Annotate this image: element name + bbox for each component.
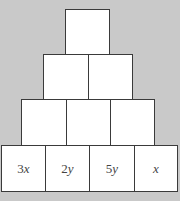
pyramid-cell-r3-c3 — [110, 99, 155, 146]
cell-variable: x — [24, 161, 30, 177]
cell-variable: y — [68, 161, 74, 177]
pyramid-cell-r3-c1 — [21, 99, 67, 146]
cell-variable: y — [112, 161, 118, 177]
pyramid-cell-r4-c3: 5y — [89, 145, 135, 192]
cell-variable: x — [153, 161, 159, 177]
pyramid-cell-r2-c1 — [43, 54, 89, 100]
pyramid-cell-r1-c1 — [65, 9, 110, 55]
pyramid-cell-r4-c2: 2y — [45, 145, 90, 192]
pyramid-cell-r2-c2 — [88, 54, 133, 100]
pyramid-cell-r4-c4: x — [134, 145, 178, 192]
pyramid-cell-r3-c2 — [66, 99, 111, 146]
pyramid-cell-r4-c1: 3x — [1, 145, 46, 192]
